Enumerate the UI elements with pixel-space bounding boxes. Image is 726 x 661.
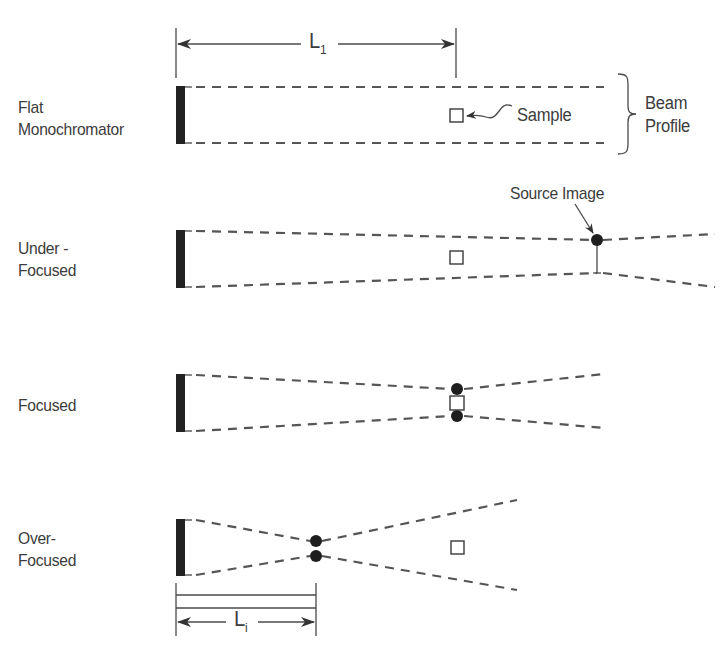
row-label-flat: Flat Monochromator (18, 97, 124, 141)
source-image-label: Source Image (510, 183, 604, 205)
sample-label: Sample (517, 104, 571, 126)
beam-profile-brace (618, 74, 636, 154)
focused-row-beam (176, 374, 604, 432)
sample-square (450, 109, 463, 122)
beam-profile-label: Beam Profile (645, 92, 690, 138)
row-label-over-focused: Over- Focused (18, 528, 76, 572)
row-label-under-focused: Under - Focused (18, 238, 76, 282)
over-focused-row-beam (176, 500, 517, 590)
row-label-focused: Focused (18, 395, 76, 417)
monochromator-flat (176, 86, 185, 144)
under-focused-row-beam (176, 204, 715, 288)
source-image-dot (591, 234, 603, 246)
li-label: Li (234, 608, 247, 633)
l1-label: L1 (309, 30, 326, 55)
